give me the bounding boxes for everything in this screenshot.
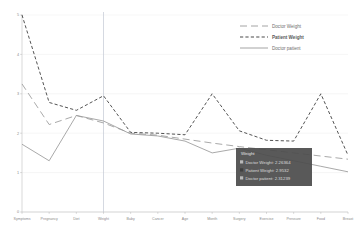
tooltip-row-0: Doctor Weight: 2.26364 bbox=[246, 160, 292, 165]
x-tick-label: Food bbox=[317, 217, 325, 221]
y-tick-label: 3 bbox=[17, 92, 19, 96]
x-tick-label: Breast bbox=[343, 217, 353, 221]
x-tick-label: Diet bbox=[73, 217, 79, 221]
legend-label-0[interactable]: Doctor Weight bbox=[272, 24, 302, 29]
x-tick-label: Exercise bbox=[260, 217, 274, 221]
y-tick-label: 4 bbox=[17, 53, 19, 57]
x-tick-label: Pressure bbox=[286, 217, 300, 221]
y-tick-label: 0 bbox=[17, 210, 19, 214]
x-tick-label: Baby bbox=[127, 217, 135, 221]
tooltip-marker-2 bbox=[240, 176, 243, 179]
tooltip-header: Weight bbox=[241, 151, 255, 156]
chart-canvas[interactable]: 012345SymptomsPregnancyDietWeightBabyCan… bbox=[0, 0, 355, 232]
legend-label-1[interactable]: Patient Weight bbox=[272, 35, 304, 40]
x-tick-label: Age bbox=[182, 217, 188, 221]
line-chart: 012345SymptomsPregnancyDietWeightBabyCan… bbox=[0, 0, 355, 232]
x-tick-label: Symptoms bbox=[14, 217, 31, 221]
y-tick-label: 1 bbox=[17, 171, 19, 175]
x-tick-label: Cancer bbox=[152, 217, 164, 221]
series-line-doctor-weight[interactable] bbox=[22, 84, 348, 159]
legend-label-2[interactable]: Doctor patient bbox=[272, 46, 301, 51]
x-tick-label: Weight bbox=[98, 217, 109, 221]
tooltip-marker-0 bbox=[240, 160, 243, 163]
y-tick-label: 5 bbox=[17, 13, 19, 17]
x-tick-label: Surgery bbox=[233, 217, 246, 221]
tooltip-row-1: Patient Weight: 2.9532 bbox=[246, 168, 290, 173]
x-tick-label: Pregnancy bbox=[41, 217, 58, 221]
y-tick-label: 2 bbox=[17, 132, 19, 136]
tooltip-marker-1 bbox=[240, 168, 243, 171]
tooltip-row-2: Doctor patient: 2.31239 bbox=[246, 176, 291, 181]
x-tick-label: Month bbox=[207, 217, 217, 221]
